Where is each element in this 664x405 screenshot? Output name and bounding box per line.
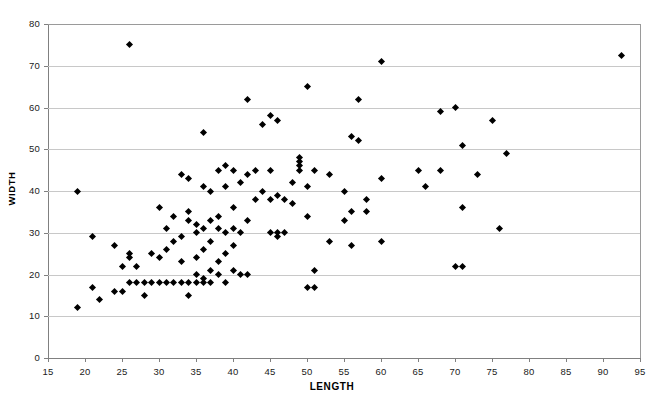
x-tick-mark <box>344 358 345 362</box>
x-tick-label: 90 <box>583 366 623 377</box>
y-tick-label: 70 <box>10 60 40 71</box>
y-tick-mark <box>44 149 48 150</box>
x-tick-mark <box>603 358 604 362</box>
gridline-y <box>48 66 640 67</box>
y-tick-mark <box>44 24 48 25</box>
x-tick-mark <box>307 358 308 362</box>
y-tick-mark <box>44 66 48 67</box>
y-tick-mark <box>44 233 48 234</box>
y-tick-label: 0 <box>10 352 40 363</box>
x-tick-label: 60 <box>361 366 401 377</box>
x-tick-label: 15 <box>28 366 68 377</box>
x-tick-mark <box>455 358 456 362</box>
x-tick-label: 70 <box>435 366 475 377</box>
y-tick-mark <box>44 108 48 109</box>
x-axis-title: LENGTH <box>0 381 664 392</box>
gridline-y <box>48 275 640 276</box>
gridline-y <box>48 233 640 234</box>
x-tick-label: 85 <box>546 366 586 377</box>
gridline-y <box>48 149 640 150</box>
x-tick-mark <box>122 358 123 362</box>
x-tick-label: 95 <box>620 366 660 377</box>
y-tick-label: 80 <box>10 18 40 29</box>
x-tick-mark <box>48 358 49 362</box>
plot-frame-right-border <box>640 24 641 358</box>
x-tick-mark <box>159 358 160 362</box>
y-tick-mark <box>44 191 48 192</box>
gridline-y <box>48 108 640 109</box>
x-tick-mark <box>196 358 197 362</box>
y-tick-label: 50 <box>10 143 40 154</box>
y-tick-label: 20 <box>10 269 40 280</box>
y-tick-label: 60 <box>10 102 40 113</box>
x-tick-mark <box>492 358 493 362</box>
plot-frame-top-border <box>48 24 640 25</box>
scatter-chart: 1520253035404550556065707580859095 01020… <box>0 0 664 405</box>
x-tick-mark <box>640 358 641 362</box>
x-tick-mark <box>85 358 86 362</box>
y-tick-mark <box>44 358 48 359</box>
y-tick-label: 30 <box>10 227 40 238</box>
gridline-y <box>48 191 640 192</box>
y-tick-label: 10 <box>10 310 40 321</box>
x-tick-label: 40 <box>213 366 253 377</box>
x-tick-label: 20 <box>65 366 105 377</box>
x-tick-mark <box>529 358 530 362</box>
x-tick-label: 35 <box>176 366 216 377</box>
x-tick-label: 80 <box>509 366 549 377</box>
x-tick-mark <box>381 358 382 362</box>
x-tick-label: 25 <box>102 366 142 377</box>
x-tick-label: 45 <box>250 366 290 377</box>
x-tick-label: 50 <box>287 366 327 377</box>
gridline-y <box>48 316 640 317</box>
x-tick-label: 55 <box>324 366 364 377</box>
x-tick-mark <box>566 358 567 362</box>
x-tick-mark <box>418 358 419 362</box>
x-tick-label: 30 <box>139 366 179 377</box>
x-tick-label: 65 <box>398 366 438 377</box>
x-tick-mark <box>233 358 234 362</box>
x-tick-mark <box>270 358 271 362</box>
y-axis-title: WIDTH <box>6 159 17 219</box>
y-tick-mark <box>44 275 48 276</box>
y-tick-mark <box>44 316 48 317</box>
x-tick-label: 75 <box>472 366 512 377</box>
